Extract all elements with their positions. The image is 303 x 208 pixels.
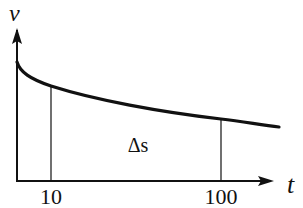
y-axis-label: v — [9, 0, 20, 26]
area-label-delta-s: Δs — [128, 134, 149, 156]
tick-label-100: 100 — [205, 184, 238, 208]
tick-label-10: 10 — [40, 184, 62, 208]
velocity-curve — [17, 62, 279, 127]
velocity-time-diagram: v t 10 100 Δs — [0, 0, 303, 208]
x-axis-label: t — [287, 170, 295, 199]
